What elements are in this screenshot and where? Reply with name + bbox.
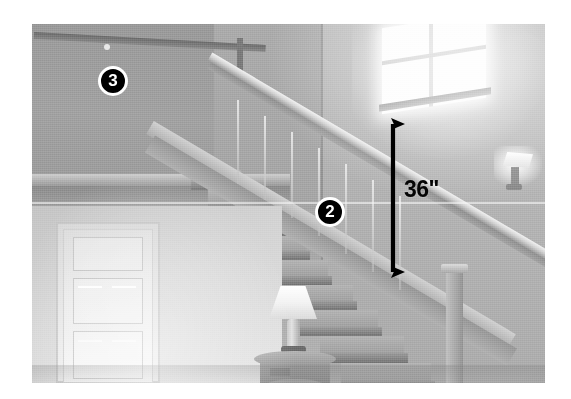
annotation-badge-3[interactable]: 3 <box>98 66 128 96</box>
dimension-label-36-inches: 36" <box>404 176 439 203</box>
screenshot-root: 3 2 36" <box>0 0 571 399</box>
annotation-badge-2[interactable]: 2 <box>315 197 345 227</box>
dimension-arrow-36-inches <box>380 108 406 288</box>
interior-staircase-photo: 3 2 36" <box>32 24 545 383</box>
